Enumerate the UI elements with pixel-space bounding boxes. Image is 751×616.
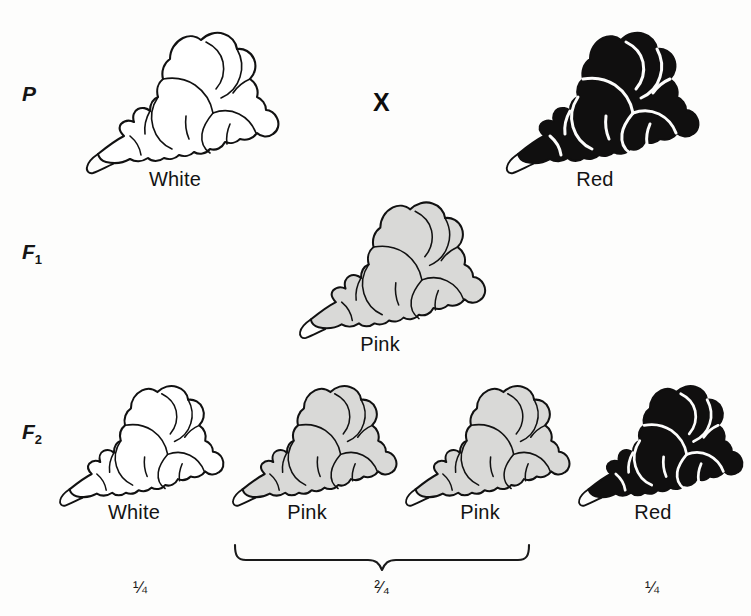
- generation-label-p: P: [22, 82, 36, 106]
- generation-label-f1: F1: [22, 240, 42, 264]
- specimen-f2-red: Red: [571, 375, 746, 524]
- specimen-caption-p-red: Red: [495, 168, 695, 191]
- specimen-p-red: Red: [500, 20, 710, 191]
- flower-illustration-pink: [398, 375, 573, 503]
- flower-illustration-red: [500, 20, 710, 170]
- specimen-caption-f2-pink-2: Pink: [396, 501, 564, 524]
- pink-group-brace: [232, 543, 532, 577]
- specimen-f2-pink-2: Pink: [398, 375, 573, 524]
- flower-illustration-pink: [225, 375, 400, 503]
- flower-illustration-white: [52, 375, 227, 503]
- genetics-cross-figure: P White X Red F1 Pink F2: [0, 0, 751, 616]
- ratio-pink: ²⁄₄: [342, 578, 422, 598]
- generation-label-f1-subscript: 1: [35, 252, 42, 267]
- generation-label-f2: F2: [22, 420, 42, 444]
- specimen-f2-white: White: [52, 375, 227, 524]
- generation-label-f2-subscript: 2: [35, 432, 42, 447]
- cross-symbol: X: [373, 88, 390, 117]
- flower-illustration-red: [571, 375, 746, 503]
- flower-illustration-white: [80, 20, 290, 170]
- brace-icon: [232, 543, 532, 573]
- specimen-caption-p-white: White: [75, 168, 275, 191]
- specimen-f1-pink: Pink: [290, 190, 490, 356]
- specimen-caption-f2-white: White: [50, 501, 218, 524]
- generation-label-f2-text: F: [22, 420, 35, 443]
- specimen-p-white: White: [80, 20, 290, 191]
- ratio-red: ¼: [612, 578, 692, 598]
- generation-label-f1-text: F: [22, 240, 35, 263]
- flower-illustration-pink: [290, 190, 490, 335]
- ratio-white: ¼: [100, 578, 180, 598]
- specimen-caption-f2-red: Red: [569, 501, 737, 524]
- specimen-f2-pink-1: Pink: [225, 375, 400, 524]
- specimen-caption-f2-pink-1: Pink: [223, 501, 391, 524]
- generation-label-p-text: P: [22, 82, 36, 105]
- specimen-caption-f1-pink: Pink: [285, 333, 475, 356]
